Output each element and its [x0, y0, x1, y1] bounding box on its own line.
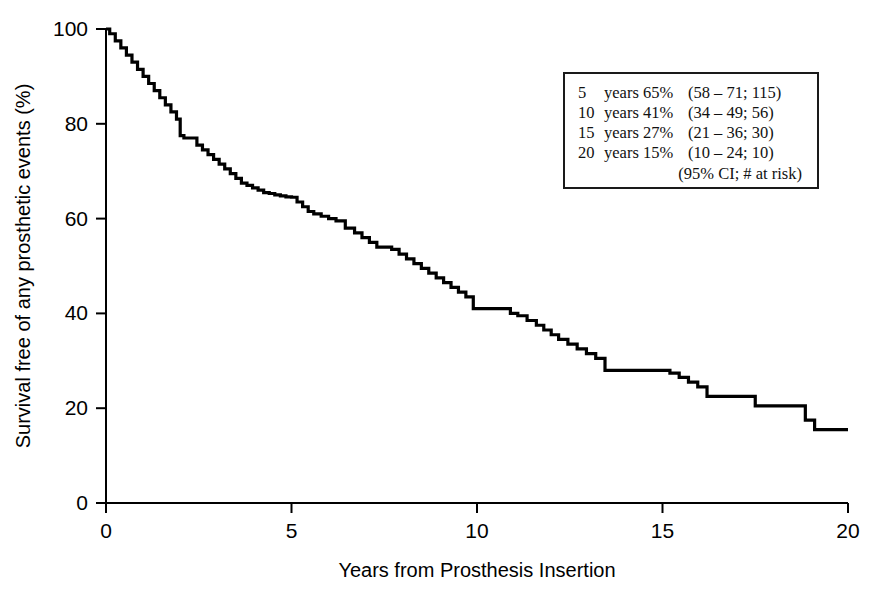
- x-tick-label-15: 15: [651, 519, 674, 542]
- x-tick-label-0: 0: [100, 519, 112, 542]
- y-tick-label-60: 60: [65, 207, 88, 230]
- x-tick-label-20: 20: [836, 519, 859, 542]
- legend-label: years 41%: [604, 103, 688, 123]
- survival-curve-figure: 0 20 40 60 80 100 0 5 10 15 20 Years fro…: [0, 0, 873, 590]
- y-axis-ticks: [96, 29, 106, 503]
- legend-row: 20 years 15% (10 – 24; 10): [565, 143, 817, 163]
- y-tick-label-80: 80: [65, 112, 88, 135]
- legend-ci: (34 – 49; 56): [688, 103, 774, 123]
- legend-ci: (10 – 24; 10): [688, 143, 774, 163]
- y-axis-title: Survival free of any prosthetic events (…: [12, 84, 34, 449]
- legend-time: 5: [578, 83, 604, 103]
- legend-row: 10 years 41% (34 – 49; 56): [565, 103, 817, 123]
- legend-ci: (58 – 71; 115): [688, 83, 781, 103]
- x-tick-label-10: 10: [465, 519, 488, 542]
- legend-time: 20: [578, 143, 604, 163]
- legend-ci: (21 – 36; 30): [688, 123, 774, 143]
- y-tick-label-0: 0: [76, 491, 88, 514]
- legend-label: years 27%: [604, 123, 688, 143]
- legend-row: 5 years 65% (58 – 71; 115): [565, 83, 817, 103]
- legend-box: 5 years 65% (58 – 71; 115) 10 years 41% …: [563, 72, 819, 189]
- legend-label: years 65%: [604, 83, 688, 103]
- legend-time: 10: [578, 103, 604, 123]
- x-tick-label-5: 5: [286, 519, 298, 542]
- legend-label: years 15%: [604, 143, 688, 163]
- legend-row: 15 years 27% (21 – 36; 30): [565, 123, 817, 143]
- x-axis-title: Years from Prosthesis Insertion: [338, 559, 615, 581]
- legend-footer: (95% CI; # at risk): [565, 164, 817, 184]
- x-axis-ticks: [106, 503, 848, 513]
- y-tick-label-40: 40: [65, 301, 88, 324]
- y-tick-label-100: 100: [53, 17, 88, 40]
- legend-time: 15: [578, 123, 604, 143]
- y-tick-label-20: 20: [65, 396, 88, 419]
